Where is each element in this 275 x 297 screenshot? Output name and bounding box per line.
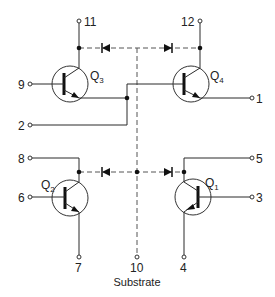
pin-label-5: 5 [256,152,263,166]
terminals [28,19,254,259]
terminal-pin-12 [198,19,202,23]
terminal-pin-6 [28,195,32,199]
terminal-pin-1 [250,96,254,100]
diode-icon [164,167,172,177]
pin-label-2: 2 [18,119,25,133]
transistor-label-q1: Q1 [205,176,219,192]
terminal-pin-8 [28,156,32,160]
schematic-diagram: 11 12 9 1 2 8 5 6 3 7 10 4 Q3 Q4 Q2 Q1 S… [0,0,275,297]
junction-nodes [77,46,203,175]
terminal-pin-5 [250,156,254,160]
substrate-label: Substrate [113,276,160,288]
pin-label-11: 11 [84,15,97,29]
transistor-label-q4: Q4 [210,69,224,85]
pin-label-7: 7 [75,261,82,275]
terminal-pin-11 [77,19,81,23]
terminal-pin-2 [28,123,32,127]
terminal-pin-4 [182,255,186,259]
pin-label-6: 6 [18,191,25,205]
schematic-svg: 11 12 9 1 2 8 5 6 3 7 10 4 Q3 Q4 Q2 Q1 S… [0,0,275,297]
pin-label-9: 9 [18,78,25,92]
transistor-q3 [32,22,127,102]
transistor-q4 [173,22,250,102]
transistor-label-q2: Q2 [41,178,55,194]
terminal-pin-10 [135,255,139,259]
diode-icon [102,43,110,53]
pin-label-1: 1 [256,92,263,106]
transistor-label-q3: Q3 [90,69,104,85]
terminal-pin-7 [77,255,81,259]
transistor-q1 [175,158,250,255]
diode-icon [164,43,172,53]
pin-label-12: 12 [181,15,195,29]
terminal-pin-9 [28,82,32,86]
terminal-pin-3 [250,195,254,199]
pin-label-10: 10 [130,261,144,275]
wire-pin2-q4base [32,84,184,125]
pin-label-4: 4 [180,261,187,275]
diode-icon [102,167,110,177]
pin-label-3: 3 [256,191,263,205]
pin-label-8: 8 [18,152,25,166]
